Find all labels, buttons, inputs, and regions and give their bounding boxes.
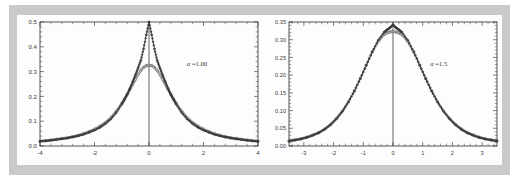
- x-tick-label: 2: [202, 149, 206, 156]
- data-point-marker: [434, 96, 436, 98]
- data-point-marker: [432, 93, 434, 95]
- data-point-marker: [495, 140, 497, 142]
- data-point-marker: [245, 139, 247, 141]
- data-point-marker: [331, 122, 333, 124]
- data-point-marker: [183, 115, 185, 117]
- x-tick-label: 3: [481, 150, 484, 156]
- x-tick-label: 2: [451, 150, 454, 156]
- data-point-marker: [328, 125, 330, 127]
- data-point-marker: [450, 119, 452, 121]
- data-point-marker: [81, 134, 83, 136]
- data-point-marker: [212, 133, 214, 135]
- data-point-marker: [333, 121, 335, 123]
- y-tick-label: 0.35: [275, 19, 286, 25]
- data-point-marker: [370, 54, 372, 56]
- data-point-marker: [49, 139, 51, 141]
- data-point-marker: [142, 51, 144, 53]
- data-point-marker: [145, 37, 147, 39]
- data-point-marker: [377, 39, 379, 41]
- data-point-marker: [172, 97, 174, 99]
- data-point-marker: [298, 138, 300, 140]
- data-point-marker: [142, 48, 144, 50]
- data-point-marker: [103, 124, 105, 126]
- data-point-marker: [139, 63, 141, 65]
- data-point-marker: [65, 137, 67, 139]
- data-point-marker: [134, 76, 136, 78]
- x-tick-label: -2: [92, 149, 98, 156]
- data-point-marker: [150, 31, 152, 33]
- data-point-marker: [430, 90, 432, 92]
- data-point-marker: [155, 54, 157, 56]
- y-tick-label: 0.00: [275, 143, 286, 149]
- alpha-annotation: α =1.00: [187, 60, 208, 67]
- data-point-marker: [59, 138, 61, 140]
- data-point-marker: [119, 105, 121, 107]
- data-point-marker: [218, 135, 220, 137]
- data-point-marker: [131, 83, 133, 85]
- x-tick-label: 1: [421, 150, 424, 156]
- data-point-marker: [190, 122, 192, 124]
- data-point-marker: [158, 63, 160, 65]
- alpha-value-text: =1.00: [190, 60, 208, 67]
- chart-left-svg: -4-20240.00.10.20.30.40.5α =1.00: [17, 15, 267, 165]
- data-point-marker: [465, 131, 467, 133]
- x-tick-label: -4: [37, 149, 43, 156]
- alpha-value-text: =1.5: [434, 60, 448, 67]
- data-point-marker: [293, 139, 295, 141]
- data-point-marker: [440, 106, 442, 108]
- data-point-marker: [373, 48, 375, 50]
- alpha-annotation: α =1.5: [430, 60, 448, 67]
- data-point-marker: [477, 136, 479, 138]
- chart-right-svg: -3-2-101230.000.050.100.150.200.250.300.…: [260, 15, 502, 165]
- data-point-marker: [138, 65, 140, 67]
- data-point-marker: [113, 115, 115, 117]
- data-point-marker: [407, 39, 409, 41]
- data-point-marker: [146, 31, 148, 33]
- data-point-marker: [345, 106, 347, 108]
- data-point-marker: [382, 33, 384, 35]
- data-point-marker: [364, 68, 366, 70]
- data-point-marker: [352, 93, 354, 95]
- data-point-marker: [178, 107, 180, 109]
- data-point-marker: [376, 42, 378, 44]
- data-point-marker: [447, 116, 449, 118]
- data-point-marker: [417, 61, 419, 63]
- data-point-marker: [339, 114, 341, 116]
- data-point-marker: [98, 127, 100, 129]
- data-point-marker: [350, 96, 352, 98]
- data-point-marker: [436, 101, 438, 103]
- data-point-marker: [422, 71, 424, 73]
- data-point-marker: [471, 134, 473, 136]
- data-point-marker: [70, 136, 72, 138]
- data-point-marker: [179, 110, 181, 112]
- x-tick-label: 0: [147, 149, 151, 156]
- data-point-marker: [429, 87, 431, 89]
- data-point-marker: [442, 110, 444, 112]
- data-point-marker: [428, 84, 430, 86]
- data-point-marker: [154, 51, 156, 53]
- data-point-marker: [126, 95, 128, 97]
- data-point-marker: [141, 54, 143, 56]
- data-point-marker: [408, 42, 410, 44]
- data-point-marker: [139, 70, 141, 72]
- data-point-marker: [160, 71, 162, 73]
- data-point-marker: [334, 119, 336, 121]
- data-point-marker: [374, 45, 376, 47]
- data-point-marker: [76, 135, 78, 137]
- data-point-marker: [411, 48, 413, 50]
- data-point-marker: [148, 21, 150, 23]
- data-point-marker: [151, 37, 153, 39]
- chart-right-alpha-1.5: -3-2-101230.000.050.100.150.200.250.300.…: [260, 15, 502, 165]
- data-point-marker: [144, 41, 146, 43]
- data-point-marker: [416, 58, 418, 60]
- x-tick-label: 0: [391, 150, 394, 156]
- data-point-marker: [419, 64, 421, 66]
- data-point-marker: [355, 87, 357, 89]
- data-point-marker: [402, 33, 404, 35]
- data-point-marker: [400, 33, 402, 35]
- data-point-marker: [426, 81, 428, 83]
- data-point-marker: [349, 98, 351, 100]
- data-point-marker: [347, 101, 349, 103]
- data-point-marker: [459, 127, 461, 129]
- data-point-marker: [340, 112, 342, 114]
